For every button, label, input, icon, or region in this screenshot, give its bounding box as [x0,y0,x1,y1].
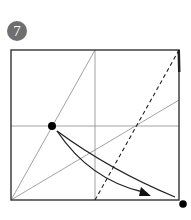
crease-lines [11,50,179,200]
folded-edge-marker [178,50,181,72]
target-point-bottom-right [179,200,187,208]
reference-point-left [48,122,56,130]
arrowhead-icon [139,187,151,196]
fold-diagram [0,0,191,220]
outer-fold-curve [57,131,175,197]
valley-fold-line [95,50,179,200]
